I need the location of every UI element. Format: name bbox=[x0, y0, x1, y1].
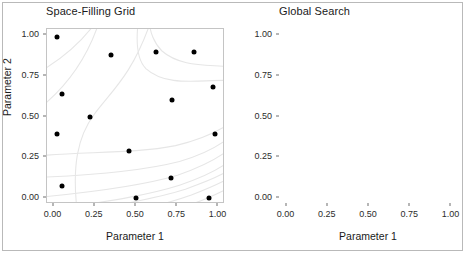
x-tick-mark bbox=[285, 203, 286, 206]
figure-container: Parameter 2 Space-Filling Grid bbox=[0, 0, 467, 255]
y-tick-mark bbox=[276, 115, 279, 116]
x-axis-title-right: Parameter 1 bbox=[339, 230, 397, 242]
x-tick-mark bbox=[135, 203, 136, 206]
data-point bbox=[109, 52, 114, 57]
data-point bbox=[211, 85, 216, 90]
y-tick-label: 0.00 bbox=[5, 192, 39, 202]
y-tick-label: 0.25 bbox=[238, 151, 272, 161]
x-tick-label: 0.00 bbox=[277, 209, 295, 219]
data-point bbox=[127, 148, 132, 153]
x-tick-label: 1.00 bbox=[442, 209, 460, 219]
data-point bbox=[153, 49, 158, 54]
x-tick-mark bbox=[217, 203, 218, 206]
x-tick-mark bbox=[326, 203, 327, 206]
y-tick-label: 0.75 bbox=[5, 70, 39, 80]
y-tick-mark bbox=[43, 156, 46, 157]
y-tick-label: 1.00 bbox=[238, 29, 272, 39]
data-point bbox=[59, 184, 64, 189]
x-tick-label: 1.00 bbox=[209, 209, 227, 219]
data-point bbox=[168, 176, 173, 181]
y-tick-mark bbox=[276, 74, 279, 75]
y-tick-label: 0.00 bbox=[238, 192, 272, 202]
y-tick-mark bbox=[276, 196, 279, 197]
panel-title-right: Global Search bbox=[279, 5, 350, 17]
x-axis-title-left: Parameter 1 bbox=[106, 230, 164, 242]
x-tick-label: 0.75 bbox=[167, 209, 185, 219]
x-tick-mark bbox=[368, 203, 369, 206]
x-tick-mark bbox=[450, 203, 451, 206]
data-point bbox=[54, 132, 59, 137]
data-point bbox=[191, 49, 196, 54]
y-tick-mark bbox=[276, 156, 279, 157]
x-tick-mark bbox=[409, 203, 410, 206]
data-point bbox=[213, 132, 218, 137]
y-tick-mark bbox=[43, 34, 46, 35]
panel-space-filling-grid: Space-Filling Grid bbox=[0, 0, 233, 255]
x-tick-mark bbox=[93, 203, 94, 206]
x-tick-label: 0.75 bbox=[400, 209, 418, 219]
x-tick-label: 0.25 bbox=[85, 209, 103, 219]
y-tick-mark bbox=[43, 74, 46, 75]
data-point bbox=[59, 91, 64, 96]
y-tick-label: 0.75 bbox=[238, 70, 272, 80]
y-tick-label: 0.25 bbox=[5, 151, 39, 161]
y-tick-mark bbox=[43, 115, 46, 116]
y-tick-label: 0.50 bbox=[238, 111, 272, 121]
plot-area-left bbox=[46, 28, 224, 203]
data-point bbox=[206, 195, 211, 200]
y-tick-mark bbox=[276, 34, 279, 35]
x-tick-label: 0.50 bbox=[359, 209, 377, 219]
data-point bbox=[170, 98, 175, 103]
data-point bbox=[134, 195, 139, 200]
panel-title-left: Space-Filling Grid bbox=[46, 5, 135, 17]
x-tick-mark bbox=[176, 203, 177, 206]
contour-lines-left bbox=[47, 29, 223, 202]
y-tick-label: 1.00 bbox=[5, 29, 39, 39]
y-tick-label: 0.50 bbox=[5, 111, 39, 121]
x-tick-label: 0.00 bbox=[44, 209, 62, 219]
x-tick-mark bbox=[52, 203, 53, 206]
y-tick-mark bbox=[43, 196, 46, 197]
data-point bbox=[54, 35, 59, 40]
x-tick-label: 0.50 bbox=[126, 209, 144, 219]
data-point bbox=[87, 114, 92, 119]
panel-global-search: Global Search bbox=[233, 0, 467, 255]
x-tick-label: 0.25 bbox=[318, 209, 336, 219]
